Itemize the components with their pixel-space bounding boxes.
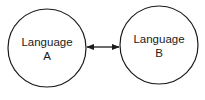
node-language-b: Language B [120,6,198,84]
node-circle [120,6,198,84]
node-language-a: Language A [8,9,86,87]
node-label-line2: A [43,50,51,62]
node-label-line1: Language [133,33,184,45]
node-label-line2: B [155,47,163,59]
node-circle [8,9,86,87]
node-label-line1: Language [21,36,72,48]
diagram-canvas: Language A Language B [0,0,205,100]
